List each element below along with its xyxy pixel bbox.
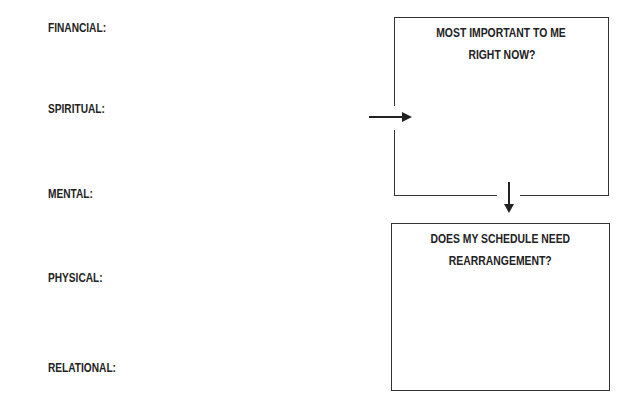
down-arrow-icon <box>504 182 514 213</box>
right-arrow-icon <box>369 112 412 122</box>
arrows-layer <box>0 0 639 413</box>
